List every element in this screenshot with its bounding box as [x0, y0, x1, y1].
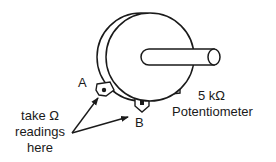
potentiometer-shaft: [141, 49, 220, 65]
terminal-a-label: A: [78, 75, 87, 91]
value-label: 5 kΩ: [198, 88, 225, 104]
arrow-to-a: [72, 98, 98, 133]
pointer-arrows: [72, 98, 128, 133]
annotation-line-1: take Ω: [8, 108, 72, 124]
terminal-b-label: B: [135, 115, 144, 131]
annotation-text: take Ω readings here: [8, 108, 72, 156]
potentiometer-diagram: A B 5 kΩ Potentiometer take Ω readings h…: [0, 0, 276, 162]
annotation-line-2: readings: [8, 124, 72, 140]
annotation-line-3: here: [8, 140, 72, 156]
arrow-to-b: [72, 117, 128, 133]
terminal-a-lug: [96, 82, 114, 96]
component-name-label: Potentiometer: [172, 104, 253, 120]
